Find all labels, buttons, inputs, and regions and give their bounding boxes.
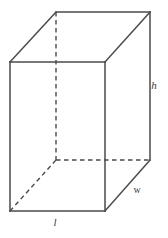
edge-depth-top-left [10, 12, 56, 62]
label-length: l [53, 217, 56, 228]
edge-depth-bottom-right [105, 160, 150, 211]
prism-figure: h w l [0, 0, 168, 238]
label-width: w [133, 185, 140, 195]
edge-depth-bottom-left-hidden [10, 160, 56, 211]
edge-depth-top-right [105, 12, 150, 62]
prism-drawing [0, 0, 168, 238]
back-face-edges [56, 12, 150, 160]
depth-edges [10, 12, 150, 211]
label-height: h [151, 80, 157, 91]
front-face-edges [10, 62, 105, 211]
